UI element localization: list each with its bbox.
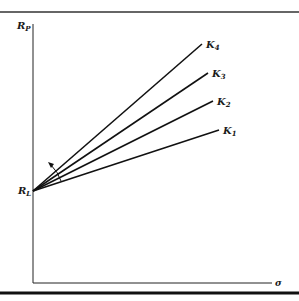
capital-market-lines-diagram: RP σ RL K4 K3 K2 K1 [0, 0, 299, 301]
origin-label: RL [17, 185, 31, 198]
label-k2: K2 [216, 96, 231, 109]
y-axis-label: RP [16, 20, 31, 33]
label-k1: K1 [222, 125, 237, 138]
line-k1 [33, 130, 219, 191]
x-axis-label: σ [275, 278, 282, 288]
label-k4: K4 [205, 39, 220, 52]
label-k3: K3 [211, 68, 226, 81]
line-k3 [33, 73, 208, 191]
line-k4 [33, 44, 202, 191]
